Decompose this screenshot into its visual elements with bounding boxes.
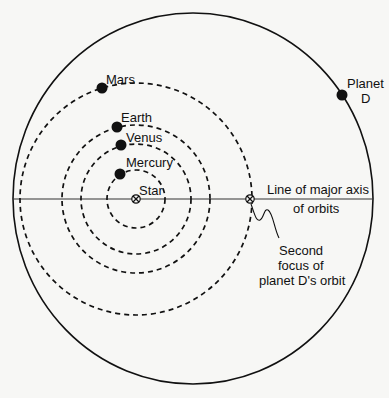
- mercury-planet: [115, 169, 126, 180]
- major-axis-label-line1: Line of major axis: [267, 182, 369, 197]
- orbit-diagram: Mars Earth Venus Mercury Star Planet D L…: [0, 0, 389, 398]
- second-focus-icon: [246, 195, 254, 203]
- mercury-label: Mercury: [126, 155, 173, 170]
- focus-label-line2: focus of: [278, 258, 324, 273]
- earth-label: Earth: [121, 110, 152, 125]
- mars-label: Mars: [106, 72, 135, 87]
- focus-leader-line: [251, 204, 279, 238]
- focus-label-line1: Second: [279, 243, 323, 258]
- venus-planet: [116, 140, 127, 151]
- planet-d-label-line1: Planet: [347, 76, 384, 91]
- focus-label-line3: planet D's orbit: [259, 273, 346, 288]
- planet-d-label-line2: D: [361, 91, 370, 106]
- star-label: Star: [139, 183, 164, 198]
- planet-d: [337, 90, 348, 101]
- major-axis-label-line2: of orbits: [293, 201, 340, 216]
- venus-label: Venus: [126, 130, 163, 145]
